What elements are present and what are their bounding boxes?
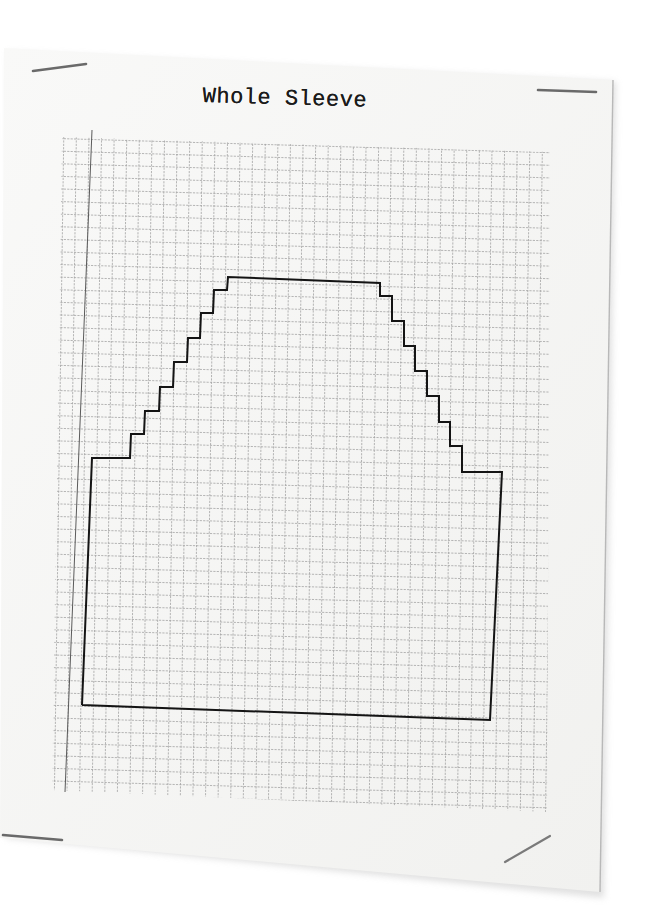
page-title: Whole Sleeve — [202, 84, 367, 114]
page-illustration — [0, 0, 645, 922]
scanned-page-scene: Whole Sleeve — [0, 0, 645, 922]
